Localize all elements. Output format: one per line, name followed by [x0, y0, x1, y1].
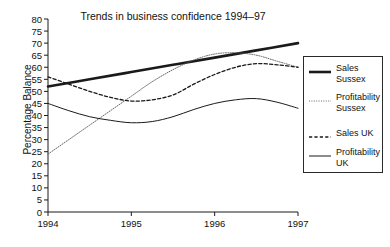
legend-label-line2: Sussex — [336, 74, 384, 85]
legend-item[interactable]: ProfitabilitySussex — [308, 92, 384, 113]
legend-item[interactable]: SalesSussex — [308, 63, 384, 84]
legend-line-sample-icon — [308, 129, 332, 141]
y-tick-label: 70 — [31, 38, 42, 49]
legend-line-sample-icon — [308, 64, 332, 76]
legend-label-line2: Sussex — [336, 103, 384, 114]
legend-label: ProfitabilitySussex — [336, 92, 384, 113]
y-tick-label: 80 — [31, 14, 42, 25]
y-tick-label: 20 — [31, 158, 42, 169]
series-line — [48, 53, 298, 154]
x-tick-label: 1994 — [37, 218, 58, 229]
series-line — [48, 43, 298, 86]
y-tick-label: 35 — [31, 122, 42, 133]
legend-line-sample-icon — [308, 93, 332, 105]
chart-legend: SalesSussexProfitabilitySussexSales UKPr… — [303, 56, 383, 173]
y-tick-label: 40 — [31, 110, 42, 121]
y-tick-label: 50 — [31, 86, 42, 97]
y-tick-label: 0 — [37, 207, 42, 218]
legend-label-line2: UK — [336, 158, 384, 169]
series-line — [48, 99, 298, 123]
x-tick-label: 1997 — [287, 218, 308, 229]
y-tick-label: 75 — [31, 26, 42, 37]
series-lines — [48, 43, 298, 154]
legend-label: Sales UK — [336, 128, 384, 139]
legend-label: ProfitabilityUK — [336, 147, 384, 168]
legend-item[interactable]: ProfitabilityUK — [308, 147, 384, 168]
chart-container: Trends in business confidence 1994–97 Pe… — [0, 0, 390, 247]
y-tick-label: 10 — [31, 182, 42, 193]
y-tick-label: 55 — [31, 74, 42, 85]
legend-line-sample-icon — [308, 148, 332, 160]
y-tick-label: 30 — [31, 134, 42, 145]
y-tick-label: 15 — [31, 170, 42, 181]
y-tick-label: 45 — [31, 98, 42, 109]
x-tick-label: 1996 — [204, 218, 225, 229]
x-axis-ticks: 1994199519961997 — [37, 212, 308, 229]
y-tick-label: 25 — [31, 146, 42, 157]
x-tick-label: 1995 — [121, 218, 142, 229]
legend-item[interactable]: Sales UK — [308, 128, 384, 141]
y-tick-label: 65 — [31, 50, 42, 61]
y-tick-label: 60 — [31, 62, 42, 73]
legend-label: SalesSussex — [336, 63, 384, 84]
y-axis-ticks: 05101520253035404550556065707580 — [31, 14, 48, 218]
y-tick-label: 5 — [37, 194, 42, 205]
